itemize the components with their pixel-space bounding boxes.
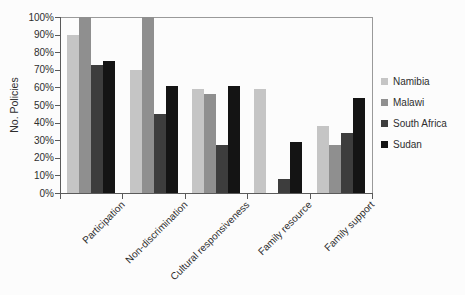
y-tick-mark bbox=[55, 158, 60, 159]
plot-border-right bbox=[372, 17, 373, 194]
bar-sudan bbox=[166, 86, 178, 193]
legend-item: Malawi bbox=[381, 97, 447, 108]
bar-malawi bbox=[329, 145, 341, 193]
x-category-label: Family resource bbox=[256, 199, 314, 257]
y-tick-label: 70% bbox=[0, 64, 54, 75]
bar-namibia bbox=[130, 70, 142, 193]
y-tick-mark bbox=[55, 70, 60, 71]
y-tick-label: 10% bbox=[0, 170, 54, 181]
y-tick-mark bbox=[55, 87, 60, 88]
x-tick-mark bbox=[60, 194, 61, 199]
plot-border-top bbox=[60, 17, 373, 18]
legend-swatch-icon bbox=[381, 78, 388, 85]
y-tick-mark bbox=[55, 17, 60, 18]
bar-south-africa bbox=[91, 65, 103, 193]
bar-sudan bbox=[228, 86, 240, 193]
bar-south-africa bbox=[341, 133, 353, 193]
y-tick-mark bbox=[55, 123, 60, 124]
legend-label: Namibia bbox=[393, 76, 430, 87]
x-tick-mark bbox=[310, 194, 311, 199]
x-category-label: Participation bbox=[80, 199, 127, 246]
bar-sudan bbox=[353, 98, 365, 193]
y-tick-label: 100% bbox=[0, 12, 54, 23]
y-tick-label: 60% bbox=[0, 82, 54, 93]
bar-namibia bbox=[317, 126, 329, 193]
grouped-bar-chart: No. Policies 0%10%20%30%40%50%60%70%80%9… bbox=[0, 0, 465, 295]
y-tick-label: 50% bbox=[0, 100, 54, 111]
legend-swatch-icon bbox=[381, 99, 388, 106]
y-tick-mark bbox=[55, 175, 60, 176]
bar-south-africa bbox=[216, 145, 228, 193]
x-tick-mark bbox=[122, 194, 123, 199]
y-tick-label: 30% bbox=[0, 135, 54, 146]
y-tick-label: 20% bbox=[0, 152, 54, 163]
legend-label: Sudan bbox=[393, 139, 422, 150]
legend-item: Sudan bbox=[381, 139, 447, 150]
legend-label: South Africa bbox=[393, 118, 447, 129]
legend: NamibiaMalawiSouth AfricaSudan bbox=[381, 76, 447, 160]
bar-malawi bbox=[79, 17, 91, 193]
legend-item: South Africa bbox=[381, 118, 447, 129]
bar-sudan bbox=[290, 142, 302, 193]
bar-south-africa bbox=[278, 179, 290, 193]
y-axis-line bbox=[60, 17, 61, 194]
x-category-label: Non-discrimination bbox=[123, 199, 189, 265]
x-category-label: Family support bbox=[323, 199, 377, 253]
y-tick-mark bbox=[55, 52, 60, 53]
legend-swatch-icon bbox=[381, 141, 388, 148]
legend-swatch-icon bbox=[381, 120, 388, 127]
bar-namibia bbox=[192, 89, 204, 193]
bar-malawi bbox=[142, 17, 154, 193]
x-tick-mark bbox=[185, 194, 186, 199]
legend-item: Namibia bbox=[381, 76, 447, 87]
bar-namibia bbox=[254, 89, 266, 193]
x-axis-line bbox=[60, 193, 373, 194]
y-tick-mark bbox=[55, 140, 60, 141]
y-tick-mark bbox=[55, 35, 60, 36]
bar-south-africa bbox=[154, 114, 166, 193]
bar-namibia bbox=[67, 35, 79, 193]
bar-malawi bbox=[204, 94, 216, 193]
x-tick-mark bbox=[372, 194, 373, 199]
y-tick-label: 80% bbox=[0, 47, 54, 58]
legend-label: Malawi bbox=[393, 97, 424, 108]
bar-sudan bbox=[103, 61, 115, 193]
y-tick-mark bbox=[55, 105, 60, 106]
y-tick-label: 90% bbox=[0, 29, 54, 40]
y-tick-label: 0% bbox=[0, 188, 54, 199]
y-tick-label: 40% bbox=[0, 117, 54, 128]
x-tick-mark bbox=[247, 194, 248, 199]
